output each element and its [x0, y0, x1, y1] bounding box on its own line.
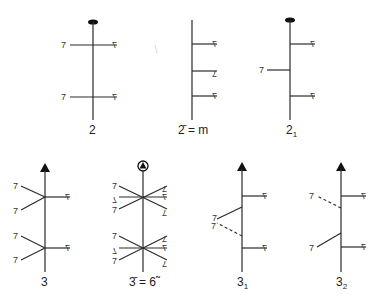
svg-text:7: 7: [309, 243, 314, 253]
label-3: 3: [41, 275, 48, 289]
diagram-2bar-m: 7 7 7 2̄ = m: [155, 20, 217, 137]
svg-text:7: 7: [309, 191, 314, 201]
circled-triangle-icon: [138, 161, 148, 171]
svg-text:7: 7: [212, 91, 217, 101]
svg-text:7: 7: [310, 39, 315, 49]
svg-text:7: 7: [212, 39, 217, 49]
label-2-1: 21: [286, 123, 298, 139]
symmetry-diagrams: 7 7 7 7 2 7 7 7 2̄ = m 7 7 7 21: [0, 0, 389, 297]
label-3bar-6tilde: 3̄ = 6̃: [129, 275, 161, 289]
svg-text:7: 7: [112, 181, 117, 191]
svg-text:7: 7: [212, 69, 217, 79]
svg-text:7: 7: [13, 181, 18, 191]
svg-text:7: 7: [361, 191, 366, 201]
svg-text:7: 7: [65, 243, 70, 253]
svg-text:7: 7: [259, 65, 264, 75]
svg-text:7: 7: [112, 195, 117, 205]
svg-text:7: 7: [162, 192, 167, 202]
diagram-3-1: 7 7 7 7 31: [211, 162, 267, 291]
diagram-2-1: 7 7 7 21: [259, 17, 315, 139]
svg-text:7: 7: [13, 231, 18, 241]
svg-text:7: 7: [13, 255, 18, 265]
svg-text:7: 7: [112, 205, 117, 215]
svg-text:7: 7: [162, 208, 167, 218]
svg-text:7: 7: [262, 191, 267, 201]
diagram-3: 7 7 7 7 7 7 3: [13, 163, 70, 289]
svg-text:7: 7: [211, 221, 216, 231]
svg-text:7: 7: [112, 246, 117, 256]
label-2: 2: [89, 123, 96, 137]
label-3-1: 31: [237, 275, 249, 291]
svg-text:7: 7: [361, 242, 366, 252]
diagram-3-2: 7 7 7 7 32: [309, 162, 366, 291]
label-2bar-m: 2̄ = m: [178, 123, 208, 137]
svg-text:7: 7: [310, 91, 315, 101]
svg-text:7: 7: [112, 92, 117, 102]
svg-text:7: 7: [13, 206, 18, 216]
svg-text:7: 7: [162, 243, 167, 253]
label-3-2: 32: [336, 275, 348, 291]
diagram-2: 7 7 7 7 2: [61, 19, 117, 137]
diagram-3bar: 7 7 7 7 7 7 7 7 7 7 7 7 3̄ = 6̃: [112, 161, 167, 289]
svg-text:7: 7: [262, 243, 267, 253]
svg-text:7: 7: [112, 256, 117, 266]
svg-text:7: 7: [162, 259, 167, 269]
svg-text:7: 7: [61, 92, 66, 102]
svg-text:7: 7: [112, 231, 117, 241]
svg-text:7: 7: [112, 40, 117, 50]
svg-text:7: 7: [61, 40, 66, 50]
svg-text:7: 7: [65, 192, 70, 202]
